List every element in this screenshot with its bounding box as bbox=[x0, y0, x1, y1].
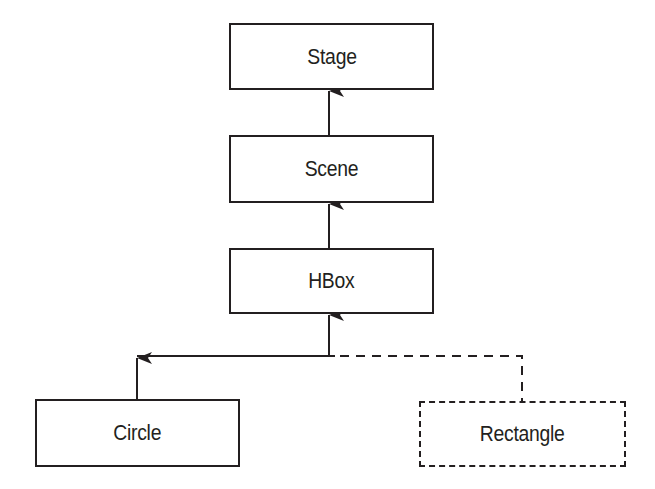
node-scene-label: Scene bbox=[305, 156, 359, 182]
node-scene: Scene bbox=[229, 135, 434, 203]
node-stage-label: Stage bbox=[307, 44, 356, 70]
node-circle-label: Circle bbox=[114, 420, 162, 446]
node-stage: Stage bbox=[229, 23, 434, 90]
node-circle: Circle bbox=[35, 399, 240, 467]
node-hbox: HBox bbox=[229, 248, 434, 314]
node-rectangle: Rectangle bbox=[419, 401, 626, 467]
node-hbox-label: HBox bbox=[308, 268, 354, 294]
edge-rectangle-bus-dashed bbox=[340, 356, 522, 401]
node-rectangle-label: Rectangle bbox=[480, 421, 565, 447]
